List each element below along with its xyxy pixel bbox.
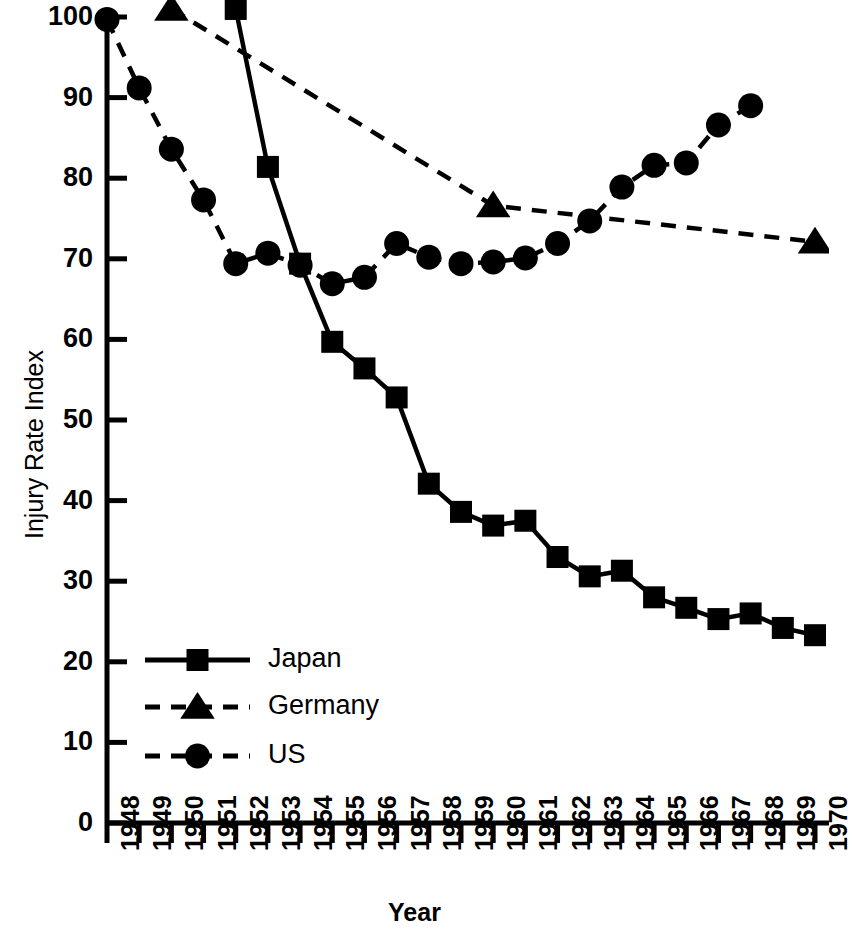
data-point-japan: [804, 624, 826, 646]
x-tick-label: 1948: [116, 795, 145, 851]
data-point-japan: [257, 156, 279, 178]
data-series: [95, 0, 830, 646]
x-tick-label: 1955: [341, 795, 370, 851]
x-tick-label: 1965: [663, 795, 692, 851]
legend-marker-japan: [187, 649, 209, 671]
data-point-us: [352, 265, 377, 290]
legend-marker-us: [185, 744, 210, 769]
x-tick-label: 1961: [534, 795, 563, 851]
series-line-japan: [236, 9, 815, 635]
data-point-us: [255, 241, 280, 266]
y-tick-label: 70: [0, 245, 93, 272]
data-point-japan: [643, 586, 665, 608]
data-point-us: [191, 187, 216, 212]
legend-label-germany: Germany: [268, 690, 379, 721]
data-point-us: [513, 245, 538, 270]
x-tick-label: 1949: [148, 795, 177, 851]
x-tick-label: 1957: [406, 795, 435, 851]
data-point-us: [577, 208, 602, 233]
data-point-japan: [386, 386, 408, 408]
legend-label-us: US: [268, 739, 306, 770]
data-point-us: [674, 150, 699, 175]
data-point-us: [609, 175, 634, 200]
x-tick-label: 1950: [180, 795, 209, 851]
data-point-japan: [707, 608, 729, 630]
x-axis-title: Year: [0, 898, 829, 927]
data-point-us: [320, 271, 345, 296]
data-point-us: [416, 245, 441, 270]
series-line-us: [107, 19, 751, 283]
x-tick-label: 1951: [213, 795, 242, 851]
x-tick-label: 1954: [309, 795, 338, 851]
data-point-germany: [154, 0, 189, 21]
x-tick-label: 1959: [470, 795, 499, 851]
x-tick-label: 1969: [792, 795, 821, 851]
data-point-us: [738, 93, 763, 118]
data-point-japan: [321, 331, 343, 353]
data-point-japan: [675, 597, 697, 619]
y-tick-label: 80: [0, 164, 93, 191]
data-point-japan: [772, 617, 794, 639]
legend-symbols: [145, 649, 250, 769]
data-point-us: [159, 137, 184, 162]
x-tick-label: 1958: [438, 795, 467, 851]
data-point-japan: [579, 565, 601, 587]
x-tick-label: 1960: [502, 795, 531, 851]
data-point-us: [449, 251, 474, 276]
x-tick-label: 1962: [567, 795, 596, 851]
data-point-japan: [450, 501, 472, 523]
data-point-us: [481, 250, 506, 275]
data-point-us: [642, 153, 667, 178]
axes: [107, 16, 829, 843]
x-tick-label: 1966: [695, 795, 724, 851]
data-point-japan: [547, 546, 569, 568]
x-tick-label: 1952: [245, 795, 274, 851]
y-tick-label: 20: [0, 648, 93, 675]
data-point-japan: [353, 357, 375, 379]
data-point-japan: [740, 602, 762, 624]
data-point-japan: [482, 515, 504, 537]
y-axis-title: Injury Rate Index: [20, 315, 49, 575]
y-tick-label: 0: [0, 809, 93, 836]
x-tick-label: 1963: [599, 795, 628, 851]
data-point-us: [706, 113, 731, 138]
y-tick-label: 90: [0, 84, 93, 111]
data-point-japan: [418, 473, 440, 495]
x-tick-label: 1956: [373, 795, 402, 851]
data-point-germany: [476, 191, 511, 218]
data-point-japan: [514, 510, 536, 532]
data-point-us: [95, 7, 120, 32]
legend-label-japan: Japan: [268, 643, 342, 674]
x-tick-label: 1964: [631, 795, 660, 851]
x-tick-label: 1968: [760, 795, 789, 851]
x-tick-label: 1967: [727, 795, 756, 851]
data-point-us: [127, 75, 152, 100]
x-tick-label: 1970: [824, 795, 852, 851]
data-point-us: [545, 231, 570, 256]
data-point-japan: [611, 560, 633, 582]
data-point-us: [384, 231, 409, 256]
y-tick-label: 10: [0, 728, 93, 755]
x-tick-label: 1953: [277, 795, 306, 851]
y-tick-label: 100: [0, 3, 93, 30]
data-point-us: [223, 251, 248, 276]
data-point-japan: [225, 0, 247, 20]
data-point-us: [288, 253, 313, 278]
